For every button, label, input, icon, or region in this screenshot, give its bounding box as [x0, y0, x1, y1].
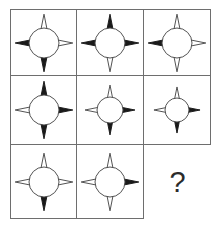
star-figure-r1c1 [14, 13, 74, 73]
matrix-cell-r2c3[interactable] [144, 76, 211, 145]
matrix-grid: ? [10, 9, 211, 219]
star-figure-r2c1 [14, 80, 74, 140]
matrix-cell-r2c1[interactable] [10, 76, 77, 145]
star-figure-r1c3 [147, 13, 207, 73]
matrix-cell-r1c1[interactable] [10, 9, 77, 76]
matrix-cell-r3c3-answer-slot[interactable]: ? [144, 145, 211, 219]
matrix-cell-r1c3[interactable] [144, 9, 211, 76]
star-figure-r1c2 [80, 13, 140, 73]
matrix-cell-r3c2[interactable] [77, 145, 144, 219]
question-mark: ? [169, 168, 185, 197]
matrix-cell-r3c1[interactable] [10, 145, 77, 219]
star-figure-r3c2 [80, 152, 140, 212]
star-figure-r3c1 [14, 152, 74, 212]
matrix-puzzle: ? [0, 0, 217, 227]
star-figure-r2c2 [84, 84, 136, 136]
star-figure-r2c3 [153, 86, 201, 134]
matrix-cell-r1c2[interactable] [77, 9, 144, 76]
matrix-cell-r2c2[interactable] [77, 76, 144, 145]
